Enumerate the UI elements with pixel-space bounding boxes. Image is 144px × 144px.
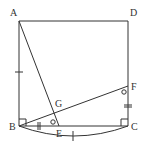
label-b: B xyxy=(9,122,16,132)
angle-mark-f xyxy=(122,90,126,94)
label-a: A xyxy=(10,8,17,18)
segment-bf xyxy=(19,86,128,126)
diagram-canvas xyxy=(0,0,144,144)
angle-mark-e xyxy=(51,120,55,124)
label-c: C xyxy=(131,122,138,132)
geometry-figure: A D B C E F G xyxy=(0,0,144,144)
label-d: D xyxy=(130,8,137,18)
right-angle-mark-c xyxy=(121,119,128,126)
label-f: F xyxy=(131,82,137,92)
segment-ae xyxy=(19,21,59,126)
label-g: G xyxy=(55,99,62,109)
label-e: E xyxy=(56,129,62,139)
